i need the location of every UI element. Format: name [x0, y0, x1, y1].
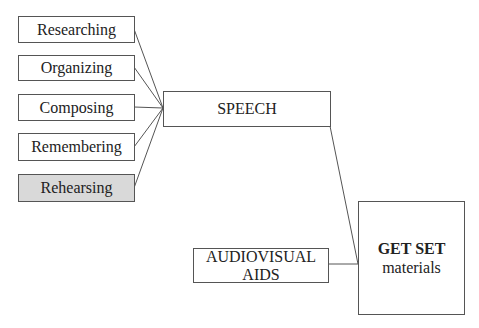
box-label: Remembering	[31, 138, 122, 156]
box-label: Composing	[40, 99, 114, 117]
box-label: Rehearsing	[41, 179, 113, 197]
connector-rehearsing	[134, 108, 163, 188]
box-organizing: Organizing	[18, 55, 135, 81]
box-speech: SPEECH	[163, 91, 331, 127]
connector-remembering	[134, 108, 163, 147]
box-rehearsing: Rehearsing	[18, 174, 135, 202]
connector-organizing	[134, 67, 163, 108]
box-label: Researching	[37, 21, 116, 39]
box-remembering: Remembering	[18, 133, 135, 161]
connector-composing	[134, 107, 163, 108]
box-audiovisual-aids: AUDIOVISUAL AIDS	[193, 248, 329, 283]
box-label: SPEECH	[217, 100, 277, 118]
box-get-set-materials: GET SET materials	[358, 201, 465, 315]
box-subtitle: materials	[382, 258, 441, 277]
box-composing: Composing	[18, 94, 135, 121]
box-label: AUDIOVISUAL AIDS	[194, 248, 328, 284]
connector-speech-getset	[330, 126, 358, 264]
box-title: GET SET	[378, 239, 446, 258]
box-label: Organizing	[41, 59, 113, 77]
connector-researching	[134, 29, 163, 108]
box-researching: Researching	[18, 16, 135, 43]
